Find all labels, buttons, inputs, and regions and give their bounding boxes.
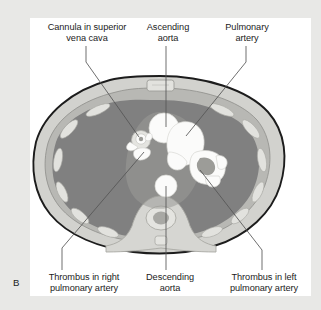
label-descending-aorta: Descending aorta bbox=[136, 272, 204, 293]
label-thrombus-right-pulmonary-artery: Thrombus in right pulmonary artery bbox=[28, 272, 140, 293]
label-cannula-svc: Cannula in superior vena cava bbox=[28, 22, 146, 43]
panel-letter: B bbox=[13, 277, 19, 288]
label-thrombus-left-pulmonary-artery: Thrombus in left pulmonary artery bbox=[210, 272, 318, 293]
sternum bbox=[147, 80, 174, 91]
ct-illustration bbox=[0, 0, 321, 310]
label-ascending-aorta: Ascending aorta bbox=[132, 22, 204, 43]
label-pulmonary-artery: Pulmonary artery bbox=[212, 22, 282, 43]
figure-root: Cannula in superior vena cava Ascending … bbox=[0, 0, 321, 310]
